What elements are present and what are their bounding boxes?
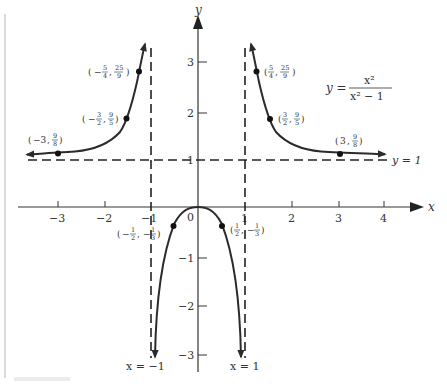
svg-text:3: 3 [283, 111, 287, 119]
svg-text:5: 5 [269, 64, 273, 72]
point-label: ( − 1 2 , − 1 3 ) [117, 226, 161, 242]
svg-text:3: 3 [151, 234, 155, 242]
x-tick-label: 4 [380, 212, 387, 225]
formula-numerator: x² [364, 74, 375, 87]
labeled-points [55, 69, 343, 230]
data-point [171, 223, 177, 229]
svg-text:): ) [292, 67, 296, 77]
svg-text:(: ( [230, 225, 234, 235]
point-label: ( − 3 2 , 9 5 ) [82, 111, 119, 127]
svg-text:2: 2 [97, 119, 101, 127]
svg-text:,: , [103, 114, 106, 124]
svg-text:−3: −3 [33, 135, 47, 145]
svg-text:(: ( [335, 136, 339, 146]
svg-text:9: 9 [53, 132, 57, 140]
svg-text:9: 9 [295, 111, 299, 119]
x-tick-label: −3 [49, 212, 65, 225]
graph-figure: x y 0 −3 −2 −1 1 2 3 4 3 2 1 −1 −2 −3 x … [0, 0, 447, 384]
svg-text:−: − [122, 229, 130, 239]
svg-text:(: ( [88, 67, 92, 77]
x-axis-label: x [428, 200, 435, 214]
data-point [219, 223, 225, 229]
axes: x y 0 [18, 3, 435, 372]
data-point [55, 151, 61, 157]
data-point [254, 69, 260, 75]
y-tick-label: −3 [178, 349, 194, 362]
asymptote-label-x-neg1: x = −1 [126, 360, 165, 373]
svg-text:9: 9 [353, 133, 357, 141]
formula-lhs: y = [325, 81, 347, 95]
svg-text:,: , [47, 135, 50, 145]
svg-text:,: , [109, 67, 112, 77]
svg-text:,: , [347, 136, 350, 146]
point-label: ( − 5 4 , 25 9 ) [88, 64, 130, 80]
svg-text:3: 3 [340, 136, 346, 146]
svg-text:,: , [275, 67, 278, 77]
svg-text:5: 5 [103, 64, 107, 72]
point-label: ( 3 2 , 9 5 ) [278, 111, 305, 127]
svg-text:8: 8 [53, 140, 57, 148]
svg-text:): ) [301, 114, 305, 124]
svg-text:9: 9 [283, 72, 287, 80]
x-tick-label: −1 [141, 212, 157, 225]
svg-text:5: 5 [295, 119, 299, 127]
svg-text:1: 1 [131, 226, 135, 234]
svg-text:8: 8 [353, 141, 357, 149]
svg-text:): ) [261, 225, 265, 235]
point-label: ( 3 , 9 8 ) [335, 133, 363, 149]
svg-text:2: 2 [283, 119, 287, 127]
svg-text:(: ( [278, 114, 282, 124]
svg-text:2: 2 [131, 234, 135, 242]
svg-text:(: ( [117, 229, 121, 239]
function-formula: y = x² x² − 1 [325, 74, 392, 103]
svg-text:,: , [241, 225, 244, 235]
svg-text:4: 4 [103, 72, 107, 80]
svg-text:3: 3 [97, 111, 101, 119]
svg-text:2: 2 [235, 230, 239, 238]
svg-text:): ) [157, 229, 161, 239]
svg-text:5: 5 [109, 119, 113, 127]
point-label: ( 5 4 , 25 9 ) [264, 64, 296, 80]
asymptote-label-y-1: y = 1 [391, 154, 421, 167]
data-point [267, 116, 273, 122]
svg-text:−: − [88, 114, 96, 124]
point-label: ( 1 2 , − 1 3 ) [230, 222, 265, 238]
x-axis-arrow-icon [410, 202, 424, 212]
svg-text:1: 1 [151, 226, 155, 234]
svg-text:−: − [143, 229, 151, 239]
data-point [337, 151, 343, 157]
svg-text:25: 25 [115, 64, 123, 72]
svg-text:): ) [126, 67, 130, 77]
svg-text:−: − [247, 225, 255, 235]
svg-text:,: , [137, 229, 140, 239]
x-tick-label: 2 [288, 212, 295, 225]
point-label: ( −3 , 9 8 ) [28, 132, 63, 148]
faint-caption-smudge [14, 377, 70, 381]
svg-text:9: 9 [109, 111, 113, 119]
y-axis-arrow-icon [193, 15, 203, 29]
svg-text:4: 4 [269, 72, 273, 80]
x-tick-label: −2 [96, 212, 112, 225]
y-tick-label: −2 [178, 300, 194, 313]
function-plot: x y 0 −3 −2 −1 1 2 3 4 3 2 1 −1 −2 −3 x … [0, 0, 447, 384]
svg-text:): ) [359, 136, 363, 146]
svg-text:−: − [94, 67, 102, 77]
svg-text:1: 1 [255, 222, 259, 230]
svg-text:(: ( [264, 67, 268, 77]
x-ticks: −3 −2 −1 1 2 3 4 [49, 201, 387, 225]
asymptote-label-x-1: x = 1 [230, 360, 259, 373]
svg-text:): ) [115, 114, 119, 124]
x-tick-label: 3 [335, 212, 342, 225]
svg-text:9: 9 [117, 72, 121, 80]
svg-text:1: 1 [235, 222, 239, 230]
y-ticks: 3 2 1 −1 −2 −3 [178, 56, 207, 362]
data-point [124, 116, 130, 122]
svg-text:): ) [59, 135, 63, 145]
svg-text:,: , [289, 114, 292, 124]
y-tick-label: 2 [187, 107, 194, 120]
y-tick-label: −1 [178, 252, 194, 265]
data-point [136, 69, 142, 75]
svg-text:25: 25 [281, 64, 289, 72]
y-axis-label: y [194, 3, 202, 17]
svg-text:3: 3 [255, 230, 259, 238]
